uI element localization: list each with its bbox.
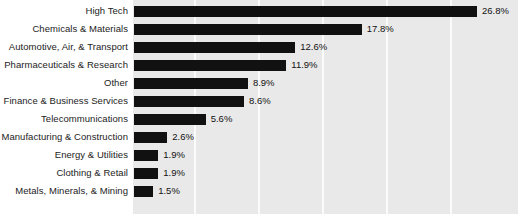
bar-container — [134, 74, 248, 92]
bar — [134, 24, 362, 35]
bar-chart: High Tech26.8%Chemicals & Materials17.8%… — [0, 0, 523, 214]
category-label: Finance & Business Services — [0, 92, 128, 110]
category-label: Chemicals & Materials — [0, 20, 128, 38]
category-label: High Tech — [0, 2, 128, 20]
category-label: Clothing & Retail — [0, 164, 128, 182]
bar — [134, 78, 248, 89]
bar-row: Finance & Business Services8.6% — [0, 92, 523, 110]
category-label: Telecommunications — [0, 110, 128, 128]
bar-container — [134, 182, 153, 200]
bar-row: Manufacturing & Construction2.6% — [0, 128, 523, 146]
bar-container — [134, 92, 244, 110]
bar-container — [134, 164, 158, 182]
value-label: 12.6% — [300, 38, 327, 56]
category-label: Pharmaceuticals & Research — [0, 56, 128, 74]
bar — [134, 150, 158, 161]
value-label: 1.9% — [163, 164, 185, 182]
value-label: 1.5% — [158, 182, 180, 200]
bar-container — [134, 2, 477, 20]
bar-row: Automotive, Air, & Transport12.6% — [0, 38, 523, 56]
value-label: 8.6% — [249, 92, 271, 110]
category-label: Energy & Utilities — [0, 146, 128, 164]
category-label: Automotive, Air, & Transport — [0, 38, 128, 56]
bar-container — [134, 110, 206, 128]
value-label: 17.8% — [367, 20, 394, 38]
category-label: Manufacturing & Construction — [0, 128, 128, 146]
bar-row: High Tech26.8% — [0, 2, 523, 20]
bar-container — [134, 56, 286, 74]
bar — [134, 6, 477, 17]
value-label: 1.9% — [163, 146, 185, 164]
bar — [134, 132, 167, 143]
value-label: 8.9% — [253, 74, 275, 92]
bar — [134, 186, 153, 197]
value-label: 2.6% — [172, 128, 194, 146]
bar — [134, 96, 244, 107]
bar-row: Energy & Utilities1.9% — [0, 146, 523, 164]
bar-container — [134, 128, 167, 146]
bar — [134, 42, 295, 53]
bar — [134, 60, 286, 71]
bar-container — [134, 38, 295, 56]
bar-container — [134, 20, 362, 38]
value-label: 26.8% — [482, 2, 509, 20]
value-label: 11.9% — [291, 56, 317, 74]
category-label: Other — [0, 74, 128, 92]
value-label: 5.6% — [211, 110, 233, 128]
bar-container — [134, 146, 158, 164]
bar-row: Telecommunications5.6% — [0, 110, 523, 128]
category-label: Metals, Minerals, & Mining — [0, 182, 128, 200]
bar-row: Metals, Minerals, & Mining1.5% — [0, 182, 523, 200]
bar-row: Other8.9% — [0, 74, 523, 92]
bar-row: Pharmaceuticals & Research11.9% — [0, 56, 523, 74]
bar — [134, 168, 158, 179]
bar-row: Chemicals & Materials17.8% — [0, 20, 523, 38]
bar-row: Clothing & Retail1.9% — [0, 164, 523, 182]
bar — [134, 114, 206, 125]
